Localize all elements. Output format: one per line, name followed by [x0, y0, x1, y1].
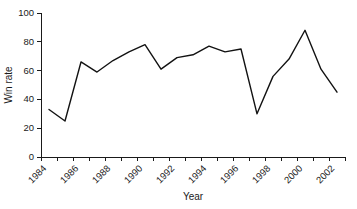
line-chart-svg: 020406080100 198419861988199019921994199…	[0, 0, 357, 209]
x-axis-title: Year	[183, 191, 204, 202]
y-tick-label: 0	[29, 151, 34, 162]
x-tick-label: 1992	[154, 163, 177, 186]
y-axis-title: Win rate	[3, 66, 14, 104]
x-tick-label: 1984	[26, 163, 49, 186]
x-axis-tick-labels: 1984198619881990199219941996199820002002	[26, 163, 337, 186]
x-tick-label: 1994	[186, 163, 209, 186]
x-axis-ticks	[41, 157, 345, 161]
x-tick-label: 1990	[122, 163, 145, 186]
chart-figure: 020406080100 198419861988199019921994199…	[0, 0, 357, 209]
x-tick-label: 2002	[314, 163, 337, 186]
y-axis-tick-labels: 020406080100	[18, 7, 34, 162]
x-tick-label: 1986	[58, 163, 81, 186]
y-tick-label: 60	[23, 65, 34, 76]
x-tick-label: 2000	[282, 163, 305, 186]
y-axis-ticks	[37, 13, 41, 157]
x-tick-label: 1988	[90, 163, 113, 186]
y-tick-label: 40	[23, 93, 34, 104]
x-tick-label: 1998	[250, 163, 273, 186]
y-tick-label: 80	[23, 36, 34, 47]
x-tick-label: 1996	[218, 163, 241, 186]
y-tick-label: 100	[18, 7, 34, 18]
y-tick-label: 20	[23, 122, 34, 133]
data-series-win-rate	[49, 30, 337, 121]
